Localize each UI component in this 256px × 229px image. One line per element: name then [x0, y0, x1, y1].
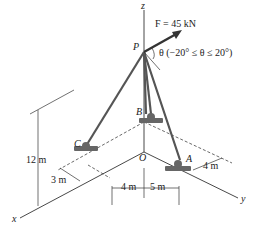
dim-height: 12 m [26, 154, 47, 165]
dim-c-offset: 3 m [51, 174, 67, 185]
label-p: P [132, 41, 139, 52]
support-b [139, 113, 163, 123]
diagram-canvas: z x y O P A B C F = 45 kN θ (−20° ≤ θ ≤ … [0, 0, 256, 229]
dim-left-span: 4 m [121, 181, 137, 192]
label-z: z [140, 0, 145, 11]
label-force: F = 45 kN [155, 18, 196, 29]
dim-a-offset: 4 m [203, 160, 219, 171]
label-c: C [74, 138, 81, 149]
label-x: x [11, 213, 17, 224]
label-a: A [185, 153, 193, 164]
label-theta: θ (−20° ≤ θ ≤ 20°) [159, 47, 232, 59]
tripod-diagram: z x y O P A B C F = 45 kN θ (−20° ≤ θ ≤ … [0, 0, 256, 229]
label-y: y [240, 193, 246, 204]
legs [86, 52, 180, 160]
label-origin: O [139, 152, 146, 163]
label-b: B [136, 106, 142, 117]
leg-pc [86, 52, 144, 146]
dim-right-span: 5 m [150, 181, 166, 192]
